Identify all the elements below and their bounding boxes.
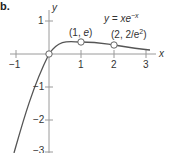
y-axis-label: y: [52, 3, 57, 13]
panel-label: b.: [0, 0, 10, 12]
x-tick-label-minus1: −1: [9, 60, 20, 70]
x-axis-label: x: [159, 49, 164, 59]
point-label-2-2-over-e2: (2, 2/e2): [111, 28, 147, 40]
point-origin: [46, 51, 52, 57]
equation-superscript: −x: [131, 12, 139, 19]
function-plot: [0, 0, 170, 153]
point2-label-suffix: ): [143, 29, 146, 40]
point-2-2-over-e2: [111, 42, 117, 48]
y-tick-label-minus1: −1: [33, 82, 44, 92]
x-tick-label-3: 3: [143, 60, 149, 70]
equation-prefix: y = xe: [104, 13, 131, 24]
x-tick-label-1: 1: [78, 60, 84, 70]
point2-label-prefix: (2, 2/e: [111, 29, 139, 40]
y-tick-label-1: 1: [38, 16, 44, 26]
x-tick-label-2: 2: [111, 60, 117, 70]
y-tick-label-minus2: −2: [33, 115, 44, 125]
point-1-e: [78, 39, 84, 45]
y-tick-label-minus3: −3: [33, 146, 44, 153]
point-label-1-e: (1, e): [69, 28, 92, 38]
equation-label: y = xe−x: [104, 12, 139, 24]
